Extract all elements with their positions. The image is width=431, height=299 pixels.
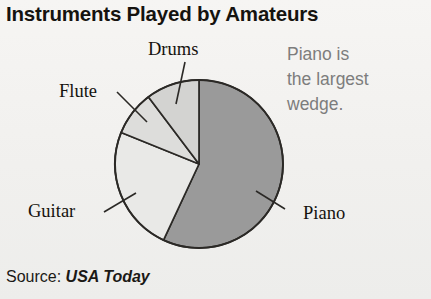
source-prefix: Source: xyxy=(6,268,61,285)
callout-line-3: wedge. xyxy=(287,92,427,117)
wedge-label-piano: Piano xyxy=(303,203,345,223)
callout-line-1: Piano is xyxy=(287,42,427,67)
wedge-label-flute: Flute xyxy=(59,81,97,101)
callout-line-2: the largest xyxy=(287,67,427,92)
chart-figure: Instruments Played by Amateurs PianoGuit… xyxy=(0,0,431,299)
source-attribution: USA Today xyxy=(66,268,150,285)
source-note: Source: USA Today xyxy=(6,268,150,286)
wedge-label-drums: Drums xyxy=(148,39,198,59)
callout-annotation: Piano is the largest wedge. xyxy=(287,42,427,117)
wedge-label-guitar: Guitar xyxy=(28,201,75,221)
